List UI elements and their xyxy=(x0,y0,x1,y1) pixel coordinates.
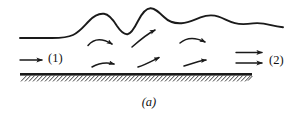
eddy-arrow-lower-2 xyxy=(138,58,159,68)
station-2-label: (2) xyxy=(269,54,284,67)
eddy-arrow-upper-2 xyxy=(132,30,155,47)
eddy-arrow-upper-3 xyxy=(180,39,205,43)
channel-bed-bar xyxy=(20,73,252,76)
figure-caption: (a) xyxy=(0,96,298,109)
eddy-arrow-lower-3 xyxy=(184,60,206,66)
eddy-arrow-lower-1 xyxy=(92,63,114,67)
free-surface-line xyxy=(20,8,283,38)
station-1-label: (1) xyxy=(48,52,63,65)
channel-bed-hatching xyxy=(21,76,252,82)
eddy-arrow-upper-1 xyxy=(88,40,112,46)
figure-container: (1) (2) (a) xyxy=(0,0,298,117)
